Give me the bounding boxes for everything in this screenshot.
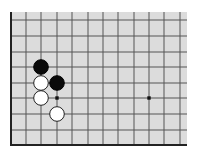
black-stone: [50, 76, 65, 91]
white-stone: [50, 107, 65, 122]
white-stone: [34, 91, 49, 106]
go-board: [0, 0, 197, 158]
black-stone: [34, 60, 49, 75]
star-point: [147, 96, 150, 99]
go-board-diagram: [0, 0, 197, 158]
star-point: [55, 96, 58, 99]
white-stone: [34, 76, 49, 91]
